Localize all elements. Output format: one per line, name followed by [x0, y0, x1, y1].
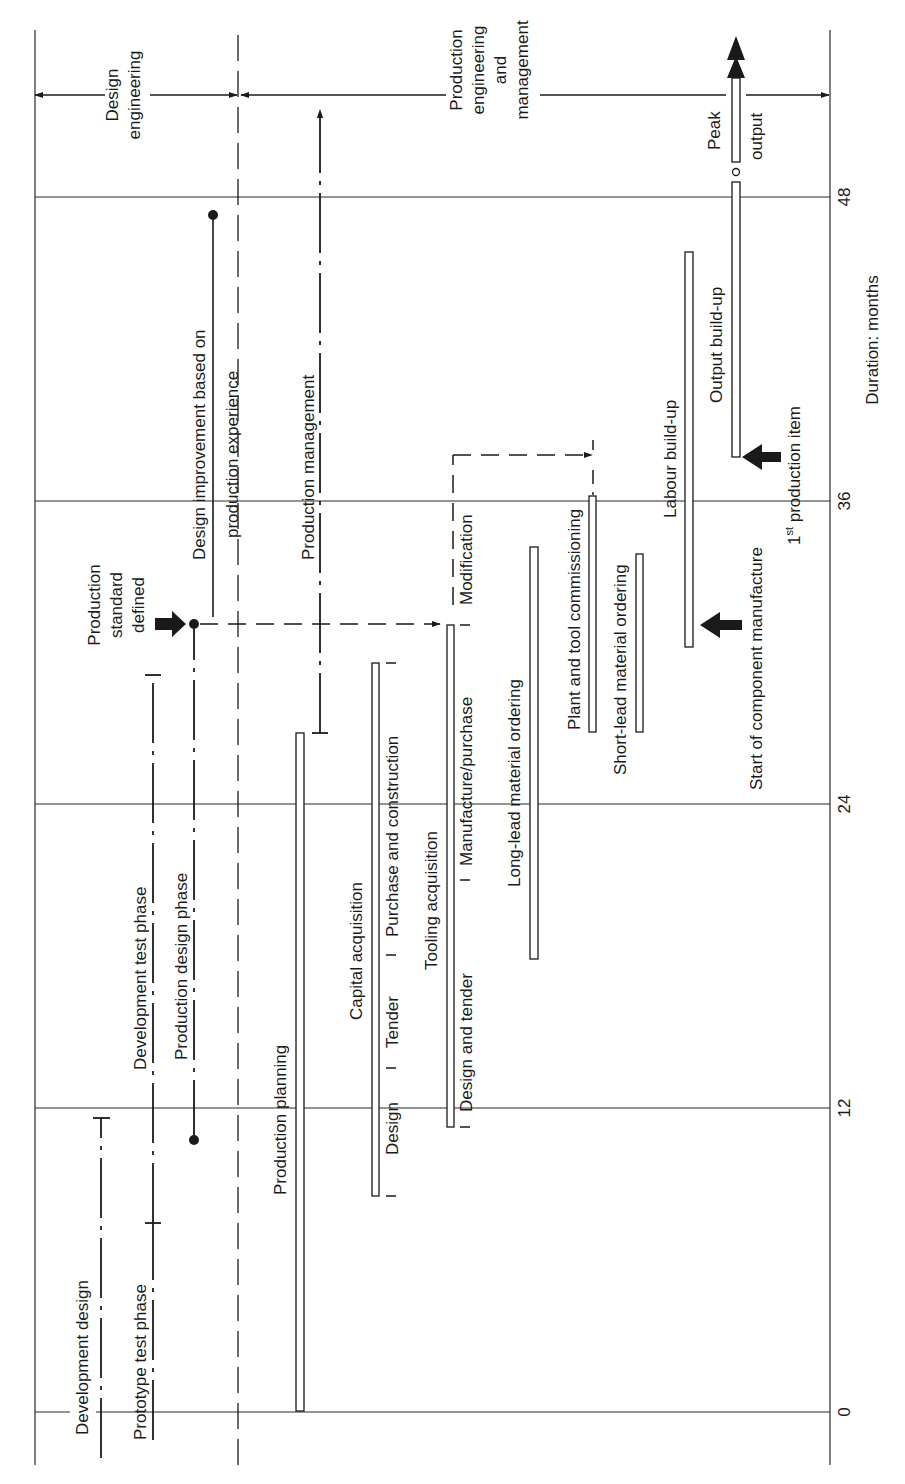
phase-design-label-2: engineering — [125, 51, 144, 140]
label-production-standard-1: Production — [85, 564, 104, 645]
tick-12: 12 — [835, 1099, 854, 1118]
label-tooling-acquisition: Tooling acquisition — [422, 831, 441, 970]
phase-prod-label-3: and — [491, 56, 510, 84]
label-tooling-manufacture: Manufacture/purchase — [457, 697, 476, 866]
label-plant-tool: Plant and tool commissioning — [565, 509, 584, 730]
milestone-dot — [189, 1135, 199, 1145]
peak-output-arrow-icon — [727, 36, 745, 78]
tick-36: 36 — [835, 492, 854, 511]
bar-plant-tool — [589, 496, 596, 732]
label-production-standard-2: standard — [107, 572, 126, 638]
label-design-improvement-1: Design improvement based on — [190, 329, 209, 560]
bar-short-lead — [636, 554, 643, 732]
label-capital-acquisition: Capital acquisition — [347, 882, 366, 1020]
first-item-arrow-icon — [742, 444, 781, 470]
phase-design-label-1: Design — [103, 69, 122, 122]
bar-output — [732, 182, 740, 457]
label-development-design: Development design — [73, 1280, 92, 1435]
grid — [35, 30, 830, 1465]
phase-header — [35, 35, 829, 1465]
label-start-component: Start of component manufacture — [747, 547, 766, 790]
phase-prod-label-2: engineering — [469, 26, 488, 115]
label-labour: Labour build-up — [661, 400, 680, 518]
label-tooling-design-tender: Design and tender — [457, 973, 476, 1112]
start-component-arrow-icon — [700, 612, 742, 638]
label-modification: Modification — [457, 514, 476, 605]
label-production-management: Production management — [299, 374, 318, 560]
production-standard-dot — [189, 619, 199, 629]
label-capital-design: Design — [383, 1102, 402, 1155]
peak-marker — [733, 169, 740, 176]
label-first-item: 1st production item — [783, 406, 804, 545]
label-production-standard-3: defined — [129, 577, 148, 633]
label-output-peak: output — [747, 112, 766, 160]
tick-0: 0 — [835, 1407, 854, 1416]
bar-production-planning — [296, 733, 304, 1411]
bar-peak-output — [732, 78, 740, 162]
tick-labels: 0 12 24 36 48 Duration: months — [835, 188, 882, 1417]
label-development-test-phase: Development test phase — [131, 887, 150, 1070]
production-standard-arrow-icon — [155, 611, 186, 637]
gantt-chart: 0 12 24 36 48 Duration: months Design en… — [0, 0, 905, 1484]
label-capital-purchase: Purchase and construction — [383, 736, 402, 937]
phase-prod-label-1: Production — [447, 29, 466, 110]
label-peak: Peak — [705, 111, 724, 150]
label-design-improvement-2: production experience — [223, 371, 242, 538]
phase-prod-label-4: management — [513, 20, 532, 120]
tick-24: 24 — [835, 795, 854, 814]
design-improvement-end-dot — [208, 210, 218, 220]
tick-48: 48 — [835, 188, 854, 207]
label-capital-tender: Tender — [383, 996, 402, 1048]
label-long-lead: Long-lead material ordering — [505, 679, 524, 887]
label-output: Output build-up — [707, 287, 726, 403]
bar-capital-acquisition — [372, 663, 379, 1196]
label-short-lead: Short-lead material ordering — [611, 564, 630, 775]
label-production-planning: Production planning — [271, 1045, 290, 1195]
bar-tooling-acquisition — [447, 625, 454, 1127]
bar-labour — [685, 252, 693, 647]
label-prototype-test-phase: Prototype test phase — [131, 1284, 150, 1440]
label-production-design-phase: Production design phase — [172, 873, 191, 1060]
axis-title: Duration: months — [863, 275, 882, 404]
bar-long-lead — [530, 547, 538, 959]
